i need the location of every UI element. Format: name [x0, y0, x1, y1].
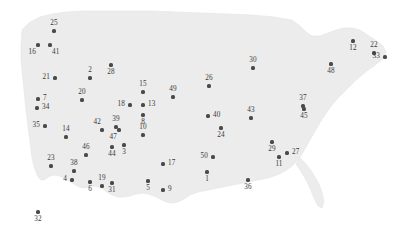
marker-label: 2 — [88, 67, 92, 74]
marker-dot-icon — [117, 128, 120, 131]
marker-label: 39 — [112, 116, 119, 123]
marker-dot-icon — [141, 133, 144, 136]
marker-dot-icon — [277, 155, 280, 158]
marker-dot-icon — [285, 151, 288, 154]
marker-dot-icon — [122, 143, 125, 146]
marker-dot-icon — [100, 128, 103, 131]
marker-label: 15 — [139, 81, 146, 88]
marker-label: 1 — [205, 176, 209, 183]
marker-label: 42 — [94, 119, 101, 126]
marker-label: 20 — [78, 89, 85, 96]
marker-label: 44 — [108, 151, 115, 158]
marker-dot-icon — [110, 181, 113, 184]
marker-label: 4 — [63, 176, 67, 183]
marker-dot-icon — [35, 106, 38, 109]
marker-label: 16 — [29, 49, 36, 56]
marker-dot-icon — [146, 179, 149, 182]
marker-label: 3 — [122, 149, 126, 156]
marker-dot-icon — [36, 43, 39, 46]
marker-dot-icon — [36, 97, 39, 100]
marker-dot-icon — [110, 145, 113, 148]
marker-label: 11 — [275, 161, 282, 168]
marker-dot-icon — [84, 153, 87, 156]
marker-dot-icon — [161, 188, 164, 191]
marker-dot-icon — [100, 184, 103, 187]
marker-dot-icon — [70, 178, 73, 181]
marker-dot-icon — [88, 76, 91, 79]
marker-dot-icon — [141, 103, 144, 106]
marker-label: 21 — [43, 74, 50, 81]
marker-dot-icon — [219, 126, 222, 129]
marker-label: 38 — [70, 160, 77, 167]
marker-dot-icon — [36, 210, 39, 213]
marker-dot-icon — [251, 66, 254, 69]
marker-label: 45 — [300, 113, 307, 120]
marker-label: 26 — [205, 75, 212, 82]
marker-dot-icon — [302, 107, 305, 110]
marker-label: 5 — [146, 185, 150, 192]
marker-dot-icon — [211, 155, 214, 158]
marker-label: 37 — [299, 95, 306, 102]
marker-dot-icon — [207, 84, 210, 87]
marker-label: 47 — [110, 134, 117, 141]
marker-dot-icon — [383, 55, 386, 58]
marker-label: 35 — [33, 122, 40, 129]
marker-label: 29 — [268, 146, 275, 153]
marker-dot-icon — [80, 98, 83, 101]
marker-label: 18 — [118, 101, 125, 108]
marker-label: 22 — [370, 42, 377, 49]
marker-dot-icon — [43, 124, 46, 127]
marker-dot-icon — [246, 178, 249, 181]
marker-label: 9 — [168, 186, 172, 193]
marker-dot-icon — [52, 29, 55, 32]
marker-dot-icon — [206, 114, 209, 117]
marker-dot-icon — [171, 95, 174, 98]
marker-dot-icon — [249, 116, 252, 119]
marker-dot-icon — [64, 135, 67, 138]
marker-label: 30 — [249, 57, 256, 64]
marker-dot-icon — [109, 63, 112, 66]
marker-dot-icon — [141, 90, 144, 93]
marker-label: 25 — [50, 20, 57, 27]
marker-dot-icon — [49, 164, 52, 167]
marker-label: 34 — [42, 104, 49, 111]
marker-label: 48 — [327, 68, 334, 75]
us-map-scatter-figure: 2516412122820734351415181384910423947443… — [0, 0, 393, 244]
marker-dot-icon — [48, 43, 51, 46]
marker-label: 6 — [88, 186, 92, 193]
marker-dot-icon — [128, 103, 131, 106]
marker-dot-icon — [205, 170, 208, 173]
marker-label: 43 — [247, 107, 254, 114]
marker-label: 49 — [169, 86, 176, 93]
marker-label: 12 — [349, 45, 356, 52]
marker-label: 27 — [292, 149, 299, 156]
marker-label: 10 — [139, 124, 146, 131]
marker-dot-icon — [270, 140, 273, 143]
marker-label: 33 — [373, 53, 380, 60]
marker-label: 32 — [34, 216, 41, 223]
marker-dot-icon — [351, 39, 354, 42]
marker-label: 36 — [244, 184, 251, 191]
marker-dot-icon — [72, 169, 75, 172]
marker-dot-icon — [141, 113, 144, 116]
marker-label: 28 — [107, 69, 114, 76]
marker-label: 46 — [82, 144, 89, 151]
marker-label: 23 — [47, 155, 54, 162]
marker-dot-icon — [53, 76, 56, 79]
marker-label: 7 — [43, 95, 47, 102]
marker-label: 31 — [108, 187, 115, 194]
marker-label: 14 — [62, 126, 69, 133]
marker-label: 40 — [213, 112, 220, 119]
marker-label: 24 — [217, 132, 224, 139]
marker-label: 17 — [168, 160, 175, 167]
marker-layer: 2516412122820734351415181384910423947443… — [0, 0, 393, 244]
marker-label: 19 — [98, 175, 105, 182]
marker-dot-icon — [161, 162, 164, 165]
marker-label: 41 — [52, 49, 59, 56]
marker-dot-icon — [88, 180, 91, 183]
marker-dot-icon — [329, 62, 332, 65]
marker-label: 50 — [201, 153, 208, 160]
marker-label: 13 — [148, 101, 155, 108]
